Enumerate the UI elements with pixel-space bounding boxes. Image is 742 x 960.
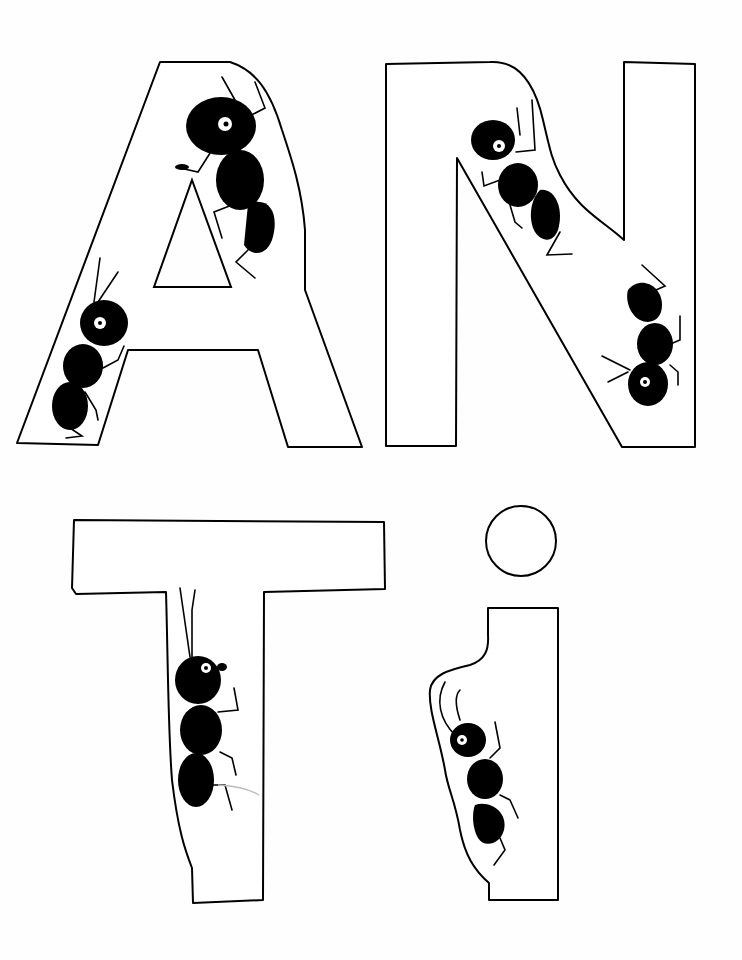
illustration-canvas: ANTi [0,0,742,960]
letters-artwork [0,0,742,960]
